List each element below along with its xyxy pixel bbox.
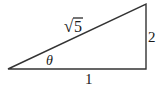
hypotenuse-value: 5 [74, 18, 82, 35]
adjacent-side-label: 1 [85, 71, 93, 87]
triangle-shape [8, 4, 146, 69]
right-triangle-diagram: √ 5 2 1 θ [0, 0, 156, 87]
radical-sign: √ [64, 17, 74, 36]
hypotenuse-label: √ 5 [64, 17, 83, 36]
opposite-side-label: 2 [148, 29, 156, 45]
angle-label: θ [46, 53, 53, 68]
